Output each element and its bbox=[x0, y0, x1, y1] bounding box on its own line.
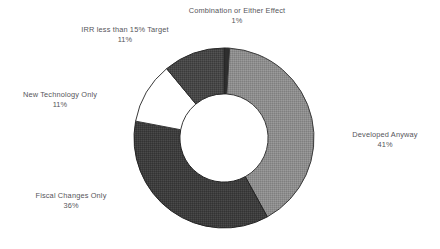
slice-label-developed-anyway: Developed Anyway 41% bbox=[332, 130, 438, 150]
slice-label-value: 11% bbox=[62, 35, 188, 45]
donut-slice bbox=[134, 121, 267, 228]
donut-chart-plot bbox=[133, 46, 315, 230]
slice-label-name: IRR less than 15% Target bbox=[62, 25, 188, 35]
slice-label-name: Combination or Either Effect bbox=[176, 6, 298, 16]
slice-label-name: Developed Anyway bbox=[332, 130, 438, 140]
slice-label-value: 1% bbox=[176, 16, 298, 26]
donut-chart-svg bbox=[133, 46, 315, 230]
donut-slice-group bbox=[134, 48, 314, 228]
slice-label-value: 41% bbox=[332, 140, 438, 150]
slice-label-value: 36% bbox=[12, 201, 130, 211]
slice-label-name: New Technology Only bbox=[2, 90, 118, 100]
slice-label-combination-or-either-effect: Combination or Either Effect 1% bbox=[176, 6, 298, 26]
slice-label-fiscal-changes-only: Fiscal Changes Only 36% bbox=[12, 191, 130, 211]
donut-chart-figure: Combination or Either Effect 1% IRR less… bbox=[0, 0, 440, 249]
slice-label-name: Fiscal Changes Only bbox=[12, 191, 130, 201]
slice-label-irr-less-than-15-target: IRR less than 15% Target 11% bbox=[62, 25, 188, 45]
slice-label-value: 11% bbox=[2, 100, 118, 110]
slice-label-new-technology-only: New Technology Only 11% bbox=[2, 90, 118, 110]
